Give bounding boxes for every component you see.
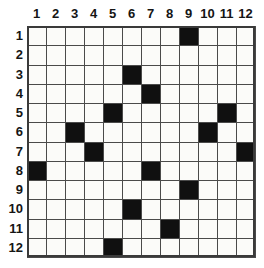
grid-cell-r2-c10[interactable] — [199, 46, 218, 65]
grid-cell-r1-c7[interactable] — [142, 27, 161, 46]
grid-cell-r1-c4[interactable] — [85, 27, 104, 46]
grid-cell-r5-c6[interactable] — [123, 104, 142, 123]
grid-cell-r3-c3[interactable] — [66, 65, 85, 84]
grid-cell-r5-c11[interactable] — [218, 104, 237, 123]
grid-cell-r6-c5[interactable] — [104, 123, 123, 142]
grid-cell-r11-c9[interactable] — [180, 219, 199, 238]
grid-cell-r6-c6[interactable] — [123, 123, 142, 142]
grid-cell-r6-c1[interactable] — [28, 123, 47, 142]
grid-cell-r4-c6[interactable] — [123, 84, 142, 103]
grid-cell-r12-c8[interactable] — [161, 238, 180, 257]
grid-cell-r8-c4[interactable] — [85, 161, 104, 180]
grid-cell-r2-c8[interactable] — [161, 46, 180, 65]
grid-cell-r6-c7[interactable] — [142, 123, 161, 142]
grid-cell-r9-c12[interactable] — [237, 181, 256, 200]
grid-cell-r10-c1[interactable] — [28, 200, 47, 219]
grid-cell-r3-c5[interactable] — [104, 65, 123, 84]
grid-cell-r10-c3[interactable] — [66, 200, 85, 219]
grid-cell-r5-c1[interactable] — [28, 104, 47, 123]
grid-cell-r10-c11[interactable] — [218, 200, 237, 219]
grid-cell-r5-c4[interactable] — [85, 104, 104, 123]
grid-cell-r11-c6[interactable] — [123, 219, 142, 238]
grid-cell-r12-c9[interactable] — [180, 238, 199, 257]
grid-cell-r2-c6[interactable] — [123, 46, 142, 65]
grid-cell-r7-c6[interactable] — [123, 142, 142, 161]
grid-cell-r11-c11[interactable] — [218, 219, 237, 238]
grid-cell-r12-c3[interactable] — [66, 238, 85, 257]
grid-cell-r10-c4[interactable] — [85, 200, 104, 219]
grid-cell-r3-c2[interactable] — [47, 65, 66, 84]
grid-cell-r12-c11[interactable] — [218, 238, 237, 257]
grid-cell-r7-c7[interactable] — [142, 142, 161, 161]
grid-cell-r7-c12[interactable] — [237, 142, 256, 161]
grid-cell-r6-c11[interactable] — [218, 123, 237, 142]
grid-cell-r11-c7[interactable] — [142, 219, 161, 238]
grid-cell-r4-c8[interactable] — [161, 84, 180, 103]
grid-cell-r4-c9[interactable] — [180, 84, 199, 103]
grid-cell-r2-c5[interactable] — [104, 46, 123, 65]
grid-cell-r2-c4[interactable] — [85, 46, 104, 65]
grid-cell-r10-c2[interactable] — [47, 200, 66, 219]
grid-cell-r6-c4[interactable] — [85, 123, 104, 142]
grid-cell-r7-c11[interactable] — [218, 142, 237, 161]
grid-cell-r2-c7[interactable] — [142, 46, 161, 65]
grid-cell-r3-c11[interactable] — [218, 65, 237, 84]
grid-cell-r11-c1[interactable] — [28, 219, 47, 238]
grid-cell-r9-c1[interactable] — [28, 181, 47, 200]
grid-cell-r7-c8[interactable] — [161, 142, 180, 161]
grid-cell-r10-c6[interactable] — [123, 200, 142, 219]
grid-cell-r8-c10[interactable] — [199, 161, 218, 180]
grid-cell-r12-c7[interactable] — [142, 238, 161, 257]
grid-cell-r8-c1[interactable] — [28, 161, 47, 180]
grid-cell-r10-c9[interactable] — [180, 200, 199, 219]
grid-cell-r6-c2[interactable] — [47, 123, 66, 142]
grid-cell-r5-c7[interactable] — [142, 104, 161, 123]
grid-cell-r4-c5[interactable] — [104, 84, 123, 103]
grid-cell-r5-c8[interactable] — [161, 104, 180, 123]
grid-cell-r4-c2[interactable] — [47, 84, 66, 103]
grid-cell-r2-c1[interactable] — [28, 46, 47, 65]
grid-cell-r10-c8[interactable] — [161, 200, 180, 219]
grid-cell-r11-c4[interactable] — [85, 219, 104, 238]
grid-cell-r11-c3[interactable] — [66, 219, 85, 238]
grid-cell-r5-c3[interactable] — [66, 104, 85, 123]
grid-cell-r7-c10[interactable] — [199, 142, 218, 161]
grid-cell-r9-c4[interactable] — [85, 181, 104, 200]
grid-cell-r8-c8[interactable] — [161, 161, 180, 180]
grid-cell-r2-c2[interactable] — [47, 46, 66, 65]
grid-cell-r5-c2[interactable] — [47, 104, 66, 123]
grid-cell-r3-c7[interactable] — [142, 65, 161, 84]
grid-cell-r9-c11[interactable] — [218, 181, 237, 200]
grid-cell-r4-c4[interactable] — [85, 84, 104, 103]
grid-cell-r9-c9[interactable] — [180, 181, 199, 200]
grid-cell-r1-c10[interactable] — [199, 27, 218, 46]
grid-cell-r5-c10[interactable] — [199, 104, 218, 123]
grid-cell-r8-c12[interactable] — [237, 161, 256, 180]
grid-cell-r11-c10[interactable] — [199, 219, 218, 238]
grid-cell-r6-c8[interactable] — [161, 123, 180, 142]
grid-cell-r1-c1[interactable] — [28, 27, 47, 46]
grid-cell-r7-c1[interactable] — [28, 142, 47, 161]
grid-cell-r4-c3[interactable] — [66, 84, 85, 103]
grid-cell-r7-c3[interactable] — [66, 142, 85, 161]
grid-cell-r12-c6[interactable] — [123, 238, 142, 257]
grid-cell-r3-c8[interactable] — [161, 65, 180, 84]
grid-cell-r1-c12[interactable] — [237, 27, 256, 46]
grid-cell-r4-c10[interactable] — [199, 84, 218, 103]
grid-cell-r12-c12[interactable] — [237, 238, 256, 257]
grid-cell-r3-c6[interactable] — [123, 65, 142, 84]
grid-cell-r1-c11[interactable] — [218, 27, 237, 46]
grid-cell-r2-c9[interactable] — [180, 46, 199, 65]
grid-cell-r10-c5[interactable] — [104, 200, 123, 219]
grid-cell-r11-c2[interactable] — [47, 219, 66, 238]
grid-cell-r9-c3[interactable] — [66, 181, 85, 200]
grid-cell-r1-c2[interactable] — [47, 27, 66, 46]
grid-cell-r4-c1[interactable] — [28, 84, 47, 103]
grid-cell-r4-c11[interactable] — [218, 84, 237, 103]
grid-cell-r1-c8[interactable] — [161, 27, 180, 46]
grid-cell-r5-c9[interactable] — [180, 104, 199, 123]
grid-cell-r1-c6[interactable] — [123, 27, 142, 46]
grid-cell-r11-c5[interactable] — [104, 219, 123, 238]
grid-cell-r11-c12[interactable] — [237, 219, 256, 238]
grid-cell-r10-c10[interactable] — [199, 200, 218, 219]
